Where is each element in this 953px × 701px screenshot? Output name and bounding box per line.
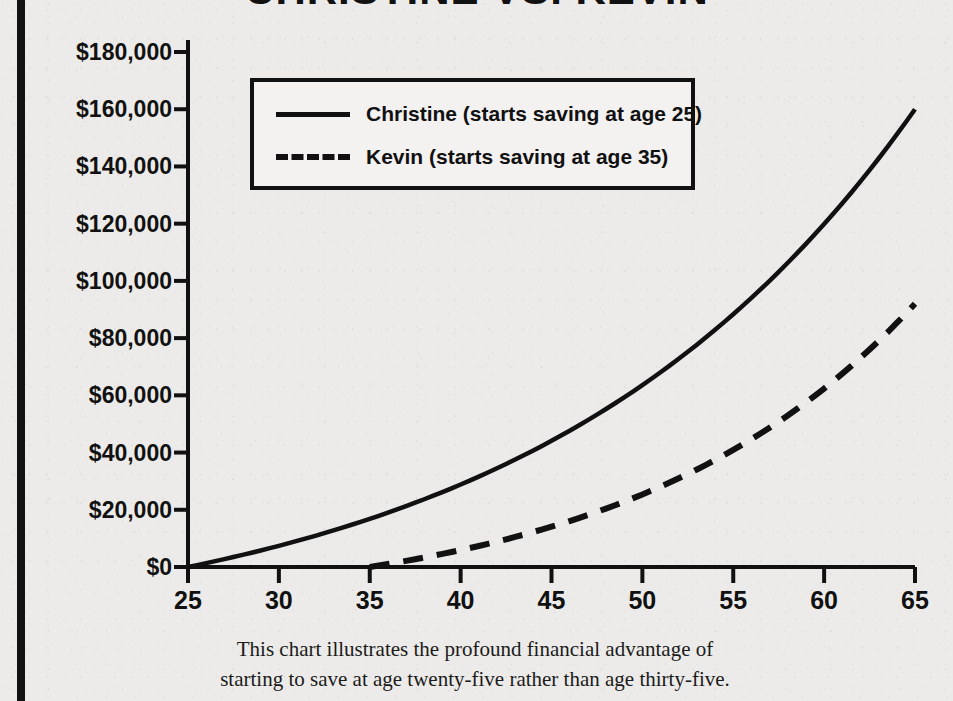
legend-label-christine: Christine (starts saving at age 25): [366, 102, 702, 126]
caption-line-1: This chart illustrates the profound fina…: [25, 634, 925, 664]
x-axis-tick-label: 50: [628, 586, 656, 615]
y-axis-tick-label: $20,000: [89, 496, 172, 523]
y-axis-tick-label: $120,000: [76, 210, 172, 237]
x-axis-tick-label: 45: [538, 586, 566, 615]
y-axis-tick-label: $80,000: [89, 325, 172, 352]
y-axis-tick-label: $160,000: [76, 96, 172, 123]
chart-legend: Christine (starts saving at age 25) Kevi…: [250, 78, 695, 190]
y-axis-tick-label: $140,000: [76, 153, 172, 180]
chart-caption: This chart illustrates the profound fina…: [25, 634, 925, 694]
x-axis-tick-labels: 253035404550556065: [0, 586, 953, 626]
legend-line-sample-dashed: [276, 154, 350, 160]
legend-label-kevin: Kevin (starts saving at age 35): [366, 145, 668, 169]
y-axis-tick-label: $40,000: [89, 439, 172, 466]
legend-line-sample-solid: [276, 112, 350, 117]
y-axis-tick-label: $100,000: [76, 267, 172, 294]
x-axis-tick-label: 60: [810, 586, 838, 615]
legend-entry-christine: Christine (starts saving at age 25): [276, 102, 702, 126]
x-axis-tick-label: 35: [356, 586, 384, 615]
x-axis-tick-label: 40: [447, 586, 475, 615]
caption-line-2: starting to save at age twenty-five rath…: [25, 664, 925, 694]
y-axis-tick-label: $60,000: [89, 382, 172, 409]
y-axis-tick-label: $180,000: [76, 39, 172, 66]
series-line-kevin: [370, 304, 915, 567]
x-axis-tick-label: 65: [901, 586, 929, 615]
y-axis-tick-label: $0: [146, 554, 172, 581]
legend-entry-kevin: Kevin (starts saving at age 35): [276, 145, 668, 169]
x-axis-tick-label: 25: [174, 586, 202, 615]
x-axis-tick-label: 30: [265, 586, 293, 615]
x-axis-tick-label: 55: [719, 586, 747, 615]
